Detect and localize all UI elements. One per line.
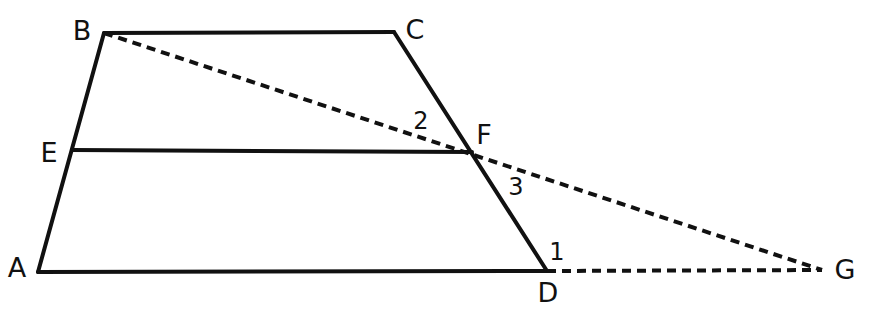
vertex-label-f: F: [476, 121, 492, 148]
angle-1-label: 1: [549, 240, 564, 264]
segment-AD: [38, 271, 547, 272]
segment-EF: [72, 150, 472, 152]
vertex-label-a: A: [8, 254, 26, 281]
segment-DG: [547, 270, 822, 271]
vertex-label-d: D: [538, 279, 559, 306]
geometry-canvas: [0, 0, 878, 317]
vertex-label-e: E: [40, 139, 57, 166]
solid-segments-group: [38, 32, 547, 272]
angle-3-label: 3: [508, 175, 523, 199]
angle-2-label: 2: [413, 109, 428, 133]
geometry-diagram: ABCDEFG 123: [0, 0, 878, 317]
vertex-label-b: B: [73, 17, 92, 44]
vertex-label-c: C: [406, 16, 425, 43]
vertex-label-g: G: [835, 256, 856, 283]
segment-BC: [104, 32, 394, 33]
